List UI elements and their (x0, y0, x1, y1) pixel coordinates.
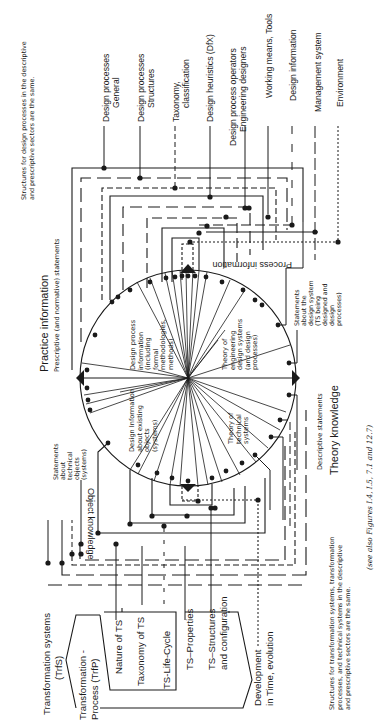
svg-text:(systems): (systems) (151, 420, 159, 452)
category-management-system: Management system (313, 32, 323, 112)
practice-information-label: Practice information (38, 275, 50, 372)
svg-text:Taxonomy of TS: Taxonomy of TS (135, 617, 146, 686)
svg-text:systems: systems (242, 416, 250, 444)
svg-text:Structures for transformation: Structures for transformation systems, t… (328, 537, 336, 710)
svg-text:Design process operators: Design process operators (228, 48, 238, 146)
svg-text:and configuration: and configuration (218, 596, 229, 670)
top-note: Structures for design processes in the d… (20, 41, 36, 200)
prescriptive-statements-label: Prescriptive (and normative) statements (53, 238, 61, 372)
svg-text:about: about (59, 461, 66, 480)
svg-text:Design processes: Design processes (101, 54, 111, 122)
svg-text:TS–Structures: TS–Structures (206, 608, 217, 670)
svg-text:(see also Figures I.4, I.5, 7.: (see also Figures I.4, I.5, 7.1 and 12.7… (365, 425, 374, 570)
svg-text:Design heuristics (DfX): Design heuristics (DfX) (205, 34, 215, 122)
category-design-processes-structures: Design processes Structures (136, 54, 156, 122)
ts-nature-label: Nature of TS (113, 620, 124, 674)
object-knowledge-label: Object knowledge (86, 488, 96, 560)
trfp-label: Transformation - Process (TrfP) (77, 650, 100, 720)
sector-design-process-information: Design process information (including fo… (129, 319, 175, 370)
ts-structures-label: TS–Structures and configuration (206, 596, 229, 670)
svg-text:processes): processes) (251, 335, 259, 370)
top-junction-dots (101, 165, 340, 244)
ts-life-cycle-label: TS-Life-Cycle (161, 631, 172, 689)
bottom-junction-dots (45, 497, 260, 565)
ts-properties-label: TS–Properties (184, 608, 195, 670)
category-design-information: Design information (288, 29, 298, 101)
svg-text:Working means, Tools: Working means, Tools (264, 14, 274, 98)
svg-text:Development: Development (252, 649, 263, 706)
svg-text:classification: classification (181, 59, 191, 108)
svg-text:Engineering designers: Engineering designers (238, 46, 248, 132)
svg-text:TS-Life-Cycle: TS-Life-Cycle (161, 631, 172, 689)
sector-theory-engineering-design-systems: Theory of engineering design systems (an… (221, 318, 259, 371)
svg-text:Theory knowledge: Theory knowledge (328, 385, 340, 475)
svg-text:Design information: Design information (288, 29, 298, 101)
trfs-label: Transformation systems (TrfS) (41, 613, 64, 715)
svg-text:processes, and technical syste: processes, and technical systems in the … (336, 545, 344, 710)
svg-text:and prescriptive sectors are t: and prescriptive sectors are the same. (28, 77, 36, 200)
bottom-note: Structures for transformation systems, t… (328, 537, 352, 710)
svg-text:Statements: Statements (52, 444, 59, 480)
knowledge-structure-diagram: Structures for design processes in the d… (0, 0, 386, 728)
sector-design-info-existing-objects: Design Information about existing object… (128, 389, 159, 452)
svg-text:technical: technical (66, 451, 73, 480)
svg-text:Descriptive statements: Descriptive statements (316, 393, 324, 470)
theory-knowledge-label: Theory knowledge (328, 385, 340, 475)
ts-development-label: Development in Time, evolution (252, 631, 275, 706)
descriptive-statements-label: Descriptive statements (316, 393, 324, 470)
svg-text:in Time, evolution: in Time, evolution (264, 631, 275, 706)
svg-text:Transformation -: Transformation - (77, 650, 88, 720)
statements-design-system-label: Statements about the design system (TS b… (293, 280, 343, 326)
svg-text:(TrfS): (TrfS) (53, 656, 64, 680)
category-design-processes-general: Design processes General (101, 54, 121, 122)
svg-text:Structures: Structures (146, 69, 156, 108)
svg-text:Transformation systems: Transformation systems (41, 613, 52, 715)
category-working-means: Working means, Tools (264, 14, 274, 98)
svg-text:Management system: Management system (313, 32, 323, 112)
svg-text:about the: about the (300, 295, 307, 326)
svg-text:Design processes: Design processes (136, 54, 146, 122)
svg-text:Object knowledge: Object knowledge (86, 488, 96, 560)
svg-text:Taxonomy,: Taxonomy, (171, 81, 181, 122)
ts-taxonomy-label: Taxonomy of TS (135, 617, 146, 686)
svg-text:Statements: Statements (293, 290, 300, 326)
svg-text:Prescriptive (and normative): Prescriptive (and normative) statements (53, 238, 61, 372)
svg-text:(systems): (systems) (80, 449, 88, 480)
category-design-heuristics: Design heuristics (DfX) (205, 34, 215, 122)
process-information-label: Process information (212, 260, 292, 270)
svg-text:processes): processes) (335, 292, 343, 326)
statements-technical-objects-label: Statements about technical objects (syst… (52, 444, 88, 480)
see-also-note: (see also Figures I.4, I.5, 7.1 and 12.7… (365, 425, 374, 570)
svg-text:and prescriptive sectors are t: and prescriptive sectors are the same. (344, 587, 352, 710)
svg-text:TS–Properties: TS–Properties (184, 608, 195, 670)
svg-text:Structures for design processe: Structures for design processes in the d… (20, 41, 28, 200)
svg-text:General: General (111, 77, 121, 108)
top-nested-brackets (72, 168, 338, 370)
svg-text:methods): methods) (167, 339, 175, 370)
category-environment: Environment (335, 58, 345, 107)
svg-text:Practice information: Practice information (38, 275, 50, 372)
sector-theory-technical-systems: Theory of technical systems (227, 412, 250, 445)
svg-text:Process (TrfP): Process (TrfP) (89, 659, 100, 720)
svg-text:Process information: Process information (212, 260, 292, 270)
design-process-categories: Design processes General Design processe… (101, 14, 345, 146)
svg-text:Environment: Environment (335, 58, 345, 107)
category-taxonomy: Taxonomy, classification (171, 59, 191, 122)
svg-text:Nature of TS: Nature of TS (113, 620, 124, 674)
